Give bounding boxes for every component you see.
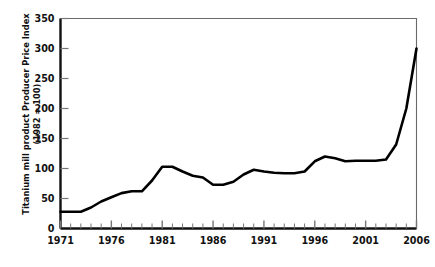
y-axis-tick-label: 250: [34, 73, 54, 84]
x-axis-tick-label: 1976: [98, 235, 125, 246]
data-line-titanium-ppi: [61, 49, 417, 212]
y-axis-tick-label: 300: [34, 43, 54, 54]
x-axis-tick-label: 1971: [47, 235, 74, 246]
y-axis-tick-label: 150: [34, 133, 54, 144]
y-axis-tick-label: 100: [34, 163, 54, 174]
y-axis-tick-label: 0: [48, 223, 55, 234]
x-axis-tick-label: 2001: [352, 235, 379, 246]
y-axis-tick-label: 200: [34, 103, 54, 114]
x-axis-tick-label: 1986: [200, 235, 227, 246]
titanium-ppi-line-chart: Titanium mill product Producer Price Ind…: [0, 0, 435, 267]
plot-area: 0501001502002503003501971197619811986199…: [0, 0, 435, 267]
x-axis-tick-label: 2006: [403, 235, 430, 246]
y-axis-tick-label: 50: [41, 193, 55, 204]
x-axis-tick-label: 1996: [301, 235, 328, 246]
x-axis-tick-label: 1991: [251, 235, 278, 246]
x-axis-tick-label: 1981: [149, 235, 176, 246]
y-axis-tick-label: 350: [34, 13, 54, 24]
